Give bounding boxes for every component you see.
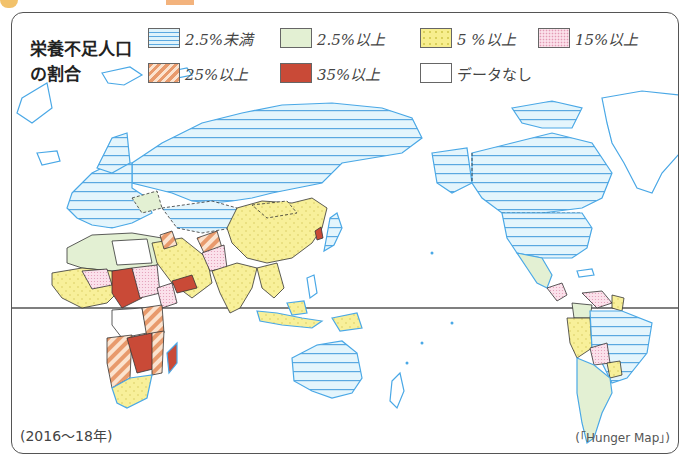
legend-item-below-2-5: 2.5%未満 xyxy=(148,27,253,49)
swatch-35-plus xyxy=(280,63,312,83)
usa xyxy=(502,213,592,258)
russia xyxy=(132,103,422,203)
top-corner-mark xyxy=(0,0,18,8)
mozambique xyxy=(152,331,164,375)
swatch-2-5-plus xyxy=(280,28,312,48)
swatch-25-plus xyxy=(148,63,180,83)
legend-item-25-plus: 25%以上 xyxy=(148,62,248,84)
swatch-15-plus xyxy=(538,28,570,48)
alaska xyxy=(432,148,472,193)
greenland xyxy=(602,91,679,193)
guyana xyxy=(612,295,624,311)
legend-item-2-5-plus: 2.5%以上 xyxy=(280,27,385,49)
colombia xyxy=(572,303,592,318)
paraguay xyxy=(607,361,622,378)
source-note: (「Hunger Map」) xyxy=(575,428,670,445)
papua xyxy=(332,313,362,331)
libya-egypt-nodata xyxy=(112,239,152,265)
canada xyxy=(472,133,612,213)
swatch-below-2-5 xyxy=(148,28,180,48)
arctic-islands xyxy=(512,101,582,128)
legend-item-35-plus: 35%以上 xyxy=(280,62,380,84)
new-zealand xyxy=(390,373,404,408)
philippines xyxy=(307,275,317,298)
map-frame: 栄養不足人口 の割合 2.5%未満 2.5%以上 5 %以上 15%以上 25%… xyxy=(11,12,679,454)
india xyxy=(212,263,257,313)
top-dash-mark xyxy=(166,0,194,5)
central-america xyxy=(547,283,567,301)
legend-title: 栄養不足人口 の割合 xyxy=(30,37,132,87)
drc-nodata xyxy=(112,308,147,338)
peru-ecuador xyxy=(567,318,592,358)
borneo xyxy=(287,301,307,315)
legend-item-5-plus: 5 %以上 xyxy=(420,27,516,49)
japan xyxy=(324,213,342,251)
legend-item-no-data: データなし xyxy=(420,62,532,84)
se-asia xyxy=(257,263,284,298)
period-note: (2016～18年) xyxy=(20,425,112,445)
legend-item-15-plus: 15%以上 xyxy=(538,27,638,49)
australia xyxy=(292,341,362,398)
swatch-no-data xyxy=(420,63,452,83)
central-asia xyxy=(162,201,237,233)
swatch-5-plus xyxy=(420,28,452,48)
indonesia xyxy=(257,311,322,328)
madagascar xyxy=(167,343,177,373)
